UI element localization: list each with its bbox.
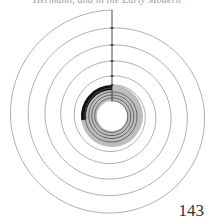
spiral-figure — [0, 0, 214, 224]
page-number: 143 — [179, 201, 205, 221]
center-hole — [98, 102, 127, 131]
